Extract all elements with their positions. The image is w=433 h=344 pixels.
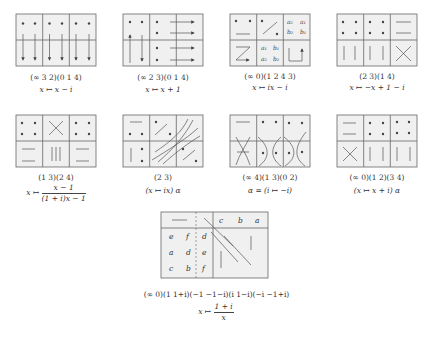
- panel-8-grid: [337, 115, 417, 167]
- bottom-header-letter-b: b: [238, 217, 243, 225]
- panel-6-cycle: (2 3): [123, 174, 203, 182]
- bottom-map-numerator: 1 + i: [214, 303, 234, 313]
- panel-1-grid: [16, 14, 96, 66]
- panel-2-map: x ↦ x + 1: [123, 86, 203, 94]
- panel-1-cycle: (∞ 3 2)(0 1 4): [16, 74, 96, 82]
- bottom-panel-grid: [161, 212, 268, 278]
- panel-7-cycle: (∞ 4)(1 3)(0 2): [230, 174, 310, 182]
- bottom-map-denominator: x: [214, 313, 234, 322]
- bottom-cycle: (∞ 0)(1 1+i)(−1 −1−i)(i 1−i)(−i −1+i): [100, 291, 333, 299]
- bottom-header-letter-a: a: [255, 217, 259, 225]
- bottom-cell-r1c3: d: [202, 233, 207, 241]
- label-b1: b₁: [300, 28, 306, 35]
- bottom-cell-r1c1: e: [169, 233, 173, 241]
- bottom-header-letter-c: c: [219, 217, 223, 225]
- bottom-map: x ↦ 1 + i x: [166, 303, 266, 321]
- panel-2-grid: [123, 14, 203, 66]
- panel-5-map-prefix: x ↦: [26, 188, 39, 197]
- panel-3-grid: a₂a₁ b₂b₁ a₁b₁ a₂b₂: [230, 14, 310, 66]
- label-a2-lower: a₂: [261, 55, 268, 62]
- panel-5-map-denominator: (1 + i)x − 1: [42, 194, 86, 203]
- panel-1-map: x ↦ x − i: [16, 86, 96, 94]
- panel-5-map: x ↦ x − 1 (1 + i)x − 1: [6, 184, 106, 202]
- bottom-cell-r2c2: d: [186, 249, 191, 257]
- panel-7-grid: [230, 115, 310, 167]
- bottom-cell-r2c3: e: [202, 249, 206, 257]
- panel-4-map: x ↦ −x + 1 − i: [337, 84, 417, 92]
- panel-6-grid: [123, 115, 203, 167]
- panel-5-map-numerator: x − 1: [42, 184, 86, 194]
- bottom-cell-r3c3: f: [202, 265, 205, 273]
- bottom-cell-r3c1: c: [169, 265, 173, 273]
- label-a2: a₂: [287, 18, 294, 25]
- panel-8-cycle: (∞ 0)(1 2)(3 4): [337, 174, 417, 182]
- bottom-cell-r1c2: f: [186, 233, 189, 241]
- panel-3-map: x ↦ ix − i: [230, 84, 310, 92]
- panel-5-grid: [16, 115, 96, 167]
- panel-4-grid: [337, 14, 417, 66]
- label-b1-lower: b₁: [273, 44, 279, 51]
- panel-2-cycle: (∞ 2 3)(0 1 4): [123, 74, 203, 82]
- bottom-map-prefix: x ↦: [198, 307, 211, 316]
- panel-7-map: α = (i ↦ −i): [230, 187, 310, 195]
- bottom-map-fraction: 1 + i x: [214, 303, 234, 321]
- bottom-cell-r3c2: b: [186, 265, 191, 273]
- panel-5-cycle: (1 3)(2 4): [16, 174, 96, 182]
- label-b2: b₂: [287, 28, 294, 35]
- panel-4-cycle: (2 3)(1 4): [337, 73, 417, 81]
- panel-3-cycle: (∞ 0)(1 2 4 3): [230, 73, 310, 81]
- label-a1-lower: a₁: [261, 44, 267, 51]
- panel-6-map: (x ↦ ix) α: [123, 187, 203, 195]
- panel-5-map-fraction: x − 1 (1 + i)x − 1: [42, 184, 86, 202]
- panel-8-map: (x ↦ x + i) α: [337, 187, 417, 195]
- bottom-cell-r2c1: a: [169, 249, 173, 257]
- label-b2-lower: b₂: [273, 55, 280, 62]
- label-a1: a₁: [300, 18, 306, 25]
